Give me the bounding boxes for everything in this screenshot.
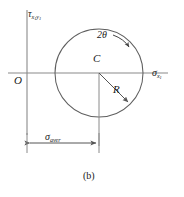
- shear-stress-axis-label: τx1y1: [28, 9, 41, 19]
- mohrs-circle-figure: τx1y1 σx1 O C R 2θ σaver (b): [0, 0, 184, 197]
- sigma-aver-subscript: aver: [50, 136, 61, 143]
- two-theta-arc-arrow: [113, 35, 129, 47]
- origin-label: O: [14, 75, 22, 86]
- figure-caption: (b): [83, 171, 95, 181]
- radius-label: R: [113, 84, 120, 95]
- normal-stress-axis-label: σx1: [152, 68, 162, 78]
- average-stress-label: σaver: [45, 132, 60, 142]
- circle-center-label: C: [93, 53, 100, 64]
- sigma-sub-x-index: 1: [160, 75, 162, 80]
- tau-sub-y-index: 1: [39, 16, 41, 21]
- mohrs-circle-drawing: [0, 0, 184, 197]
- two-theta-angle-label: 2θ: [97, 30, 107, 40]
